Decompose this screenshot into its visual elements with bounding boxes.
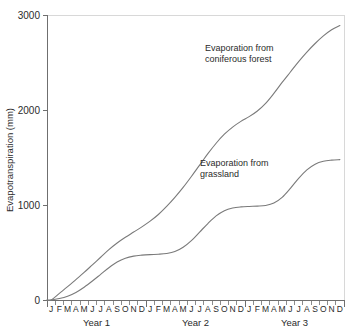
x-tick-label: A (271, 304, 277, 314)
plot-frame (47, 15, 344, 300)
x-tick-label: J (49, 304, 53, 314)
x-tick-label: F (156, 304, 161, 314)
x-tick-label: M (163, 304, 170, 314)
x-tick-label: N (131, 304, 137, 314)
evapotranspiration-chart: 0100020003000 JFMAMJJASONDJFMAMJJASONDJF… (0, 0, 352, 331)
x-tick-label: J (288, 304, 292, 314)
y-tick-label: 0 (34, 295, 40, 306)
x-tick-label: D (238, 304, 244, 314)
x-tick-label: A (106, 304, 112, 314)
x-tick-label: M (262, 304, 269, 314)
x-axis-tick-labels: JFMAMJJASONDJFMAMJJASONDJFMAMJJASOND (49, 304, 343, 314)
x-tick-label: N (230, 304, 236, 314)
x-tick-label: O (122, 304, 129, 314)
x-tick-label: A (73, 304, 79, 314)
x-tick-label: J (148, 304, 152, 314)
x-tick-label: S (213, 304, 219, 314)
x-tick-label: M (64, 304, 71, 314)
x-group-label: Year 2 (182, 317, 209, 328)
y-tick-label: 2000 (18, 105, 41, 116)
x-tick-label: J (198, 304, 202, 314)
x-tick-label: N (329, 304, 335, 314)
x-tick-label: S (312, 304, 318, 314)
annotation-line: coniferous forest (205, 54, 272, 64)
x-group-label: Year 3 (281, 317, 308, 328)
x-tick-label: D (139, 304, 145, 314)
series-line-coniferous-forest (47, 25, 340, 300)
x-tick-label: F (57, 304, 62, 314)
y-axis-title: Evapotranspiration (mm) (4, 108, 15, 212)
annotation-line: Evaporation from (200, 158, 269, 168)
x-tick-label: A (172, 304, 178, 314)
x-tick-label: M (81, 304, 88, 314)
x-tick-label: A (205, 304, 211, 314)
x-axis-group-labels: Year 1Year 2Year 3 (83, 317, 308, 328)
y-axis-ticks: 0100020003000 (18, 10, 47, 306)
x-tick-label: A (304, 304, 310, 314)
x-group-label: Year 1 (83, 317, 110, 328)
y-tick-label: 3000 (18, 10, 41, 21)
axis-lines (47, 15, 344, 300)
series-line-grassland (47, 160, 340, 301)
grassland-label: Evaporation fromgrassland (200, 158, 269, 179)
y-tick-label: 1000 (18, 200, 41, 211)
annotation-line: grassland (200, 169, 239, 179)
series-layer (47, 25, 340, 300)
x-tick-label: J (247, 304, 251, 314)
x-tick-label: O (221, 304, 228, 314)
coniferous-label: Evaporation fromconiferous forest (205, 43, 274, 64)
x-tick-label: F (255, 304, 260, 314)
series-annotations: Evaporation fromconiferous forestEvapora… (200, 43, 274, 179)
x-tick-label: M (180, 304, 187, 314)
x-tick-label: J (90, 304, 94, 314)
x-tick-label: O (320, 304, 327, 314)
x-tick-label: M (279, 304, 286, 314)
x-tick-label: J (189, 304, 193, 314)
chart-canvas: 0100020003000 JFMAMJJASONDJFMAMJJASONDJF… (0, 0, 352, 331)
x-tick-label: J (297, 304, 301, 314)
x-tick-label: S (114, 304, 120, 314)
x-tick-label: J (99, 304, 103, 314)
annotation-line: Evaporation from (205, 43, 274, 53)
x-tick-label: D (337, 304, 343, 314)
plot-border (47, 15, 344, 300)
